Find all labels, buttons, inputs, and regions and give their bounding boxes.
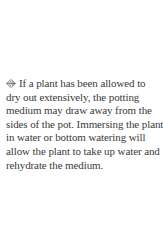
leaf-ornament-icon — [6, 79, 16, 88]
tip-line-3: medium may draw away from the — [6, 104, 162, 118]
tip-line-text: If a plant has been allowed to — [19, 77, 146, 89]
watering-tip-paragraph: If a plant has been allowed to dry out e… — [6, 77, 162, 172]
tip-line-4: sides of the pot. Immersing the plant — [6, 118, 162, 132]
page: If a plant has been allowed to dry out e… — [6, 77, 162, 172]
tip-line-1: If a plant has been allowed to — [6, 77, 162, 91]
tip-line-5: in water or bottom watering will — [6, 131, 162, 145]
tip-line-2: dry out extensively, the potting — [6, 91, 162, 105]
tip-line-6: allow the plant to take up water and — [6, 145, 162, 159]
tip-line-7: rehydrate the medium. — [6, 159, 162, 173]
